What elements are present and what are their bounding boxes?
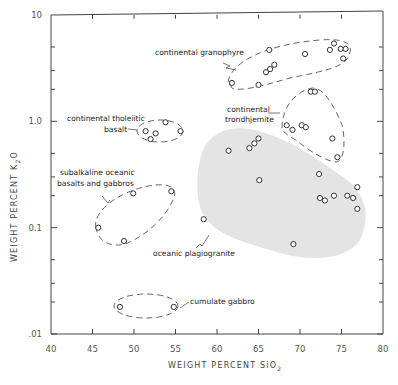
data-point-continental-trondhjemite xyxy=(284,123,289,128)
y-tick-label: 0.1 xyxy=(28,223,42,233)
x-axis-tick-labels: 404550556065707580 xyxy=(46,344,389,354)
data-point-subalkaline-oceanic-basalts-and-gabbros xyxy=(169,189,174,194)
data-point-oceanic-plagiogranite xyxy=(317,195,322,200)
data-point-oceanic-plagiogranite xyxy=(345,193,350,198)
data-point-continental-tholeiitic-basalt xyxy=(148,137,153,142)
label-tholeiitic-line2: basalt xyxy=(104,125,127,134)
data-point-continental-tholeiitic-basalt xyxy=(143,129,148,134)
data-point-continental-tholeiitic-basalt xyxy=(178,129,183,134)
cumulate-gabbro-outline xyxy=(114,294,178,318)
data-point-continental-trondhjemite xyxy=(312,89,317,94)
data-point-oceanic-plagiogranite xyxy=(317,171,322,176)
x-axis-title: WEIGHT PERCENT SiO2 xyxy=(168,361,282,372)
data-point-subalkaline-oceanic-basalts-and-gabbros xyxy=(131,191,136,196)
label-tholeiitic-line1: continental tholeiitic xyxy=(67,114,145,123)
data-point-cumulate-gabbro xyxy=(171,304,176,309)
data-point-oceanic-plagiogranite xyxy=(291,242,296,247)
data-point-oceanic-plagiogranite xyxy=(201,217,206,222)
label-oceanic-plagiogranite: oceanic plagiogranite xyxy=(153,249,235,258)
data-point-continental-granophyre xyxy=(267,47,272,52)
data-point-continental-granophyre xyxy=(256,82,261,87)
data-point-continental-granophyre xyxy=(331,41,336,46)
x-tick-label: 55 xyxy=(170,344,181,354)
y-axis-title: WEIGHT PERCENT K2O xyxy=(10,151,21,262)
leader-granophyre xyxy=(223,63,236,70)
data-point-continental-tholeiitic-basalt xyxy=(163,120,168,125)
x-tick-label: 40 xyxy=(46,344,57,354)
data-point-cumulate-gabbro xyxy=(117,304,122,309)
x-tick-label: 60 xyxy=(212,344,223,354)
x-tick-label: 80 xyxy=(378,344,389,354)
data-point-oceanic-plagiogranite xyxy=(247,146,252,151)
data-point-oceanic-plagiogranite xyxy=(256,136,261,141)
y-axis-tick-labels: 101.00.1.01 xyxy=(28,10,42,339)
data-point-continental-granophyre xyxy=(229,80,234,85)
data-point-oceanic-plagiogranite xyxy=(355,185,360,190)
data-point-oceanic-plagiogranite xyxy=(355,206,360,211)
data-point-oceanic-plagiogranite xyxy=(226,148,231,153)
data-point-continental-tholeiitic-basalt xyxy=(153,131,158,136)
data-point-continental-granophyre xyxy=(268,67,273,72)
x-tick-label: 50 xyxy=(129,344,140,354)
data-point-continental-trondhjemite xyxy=(290,127,295,132)
label-subalkaline-line2: basalts and gabbros xyxy=(57,179,134,188)
data-point-continental-granophyre xyxy=(272,62,277,67)
granophyre-outline xyxy=(228,40,350,90)
y-tick-label: 1.0 xyxy=(28,116,42,126)
y-tick-label: 10 xyxy=(31,10,42,20)
data-point-oceanic-plagiogranite xyxy=(331,193,336,198)
data-point-continental-trondhjemite xyxy=(330,136,335,141)
x-tick-label: 45 xyxy=(87,344,98,354)
leader-plagiogranite xyxy=(196,235,209,248)
data-point-continental-granophyre xyxy=(302,51,307,56)
leader-subalkaline xyxy=(102,196,110,203)
x-tick-label: 70 xyxy=(295,344,306,354)
leader-tholeiitic xyxy=(128,129,138,130)
label-continental-granophyre: continental granophyre xyxy=(155,48,244,57)
data-point-continental-trondhjemite xyxy=(303,125,308,130)
data-point-subalkaline-oceanic-basalts-and-gabbros xyxy=(121,238,126,243)
label-trondhjemite-line1: continental xyxy=(227,105,270,114)
data-point-continental-granophyre xyxy=(343,46,348,51)
data-point-oceanic-plagiogranite xyxy=(322,198,327,203)
data-point-continental-granophyre xyxy=(341,56,346,61)
label-subalkaline-line1: subalkaline oceanic xyxy=(60,168,135,177)
x-tick-label: 65 xyxy=(253,344,264,354)
leader-cumulate xyxy=(180,302,189,308)
oceanic-plagiogranite-field xyxy=(197,128,366,258)
x-tick-label: 75 xyxy=(336,344,347,354)
label-trondhjemite-line2: trondhjemite xyxy=(225,115,274,124)
label-cumulate-gabbro: cumulate gabbro xyxy=(190,297,255,306)
y-tick-label: .01 xyxy=(28,329,42,339)
data-point-continental-trondhjemite xyxy=(335,155,340,160)
data-point-oceanic-plagiogranite xyxy=(252,141,257,146)
data-point-subalkaline-oceanic-basalts-and-gabbros xyxy=(96,225,101,230)
data-point-continental-granophyre xyxy=(327,47,332,52)
data-point-oceanic-plagiogranite xyxy=(257,178,262,183)
data-point-oceanic-plagiogranite xyxy=(351,195,356,200)
scatter-chart: 404550556065707580 101.00.1.01 continent… xyxy=(0,0,398,385)
